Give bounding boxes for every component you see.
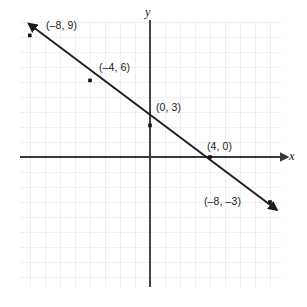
point-label-neg8-neg3: (–8, –3) [204, 196, 241, 207]
point-label-neg4-6: (–4, 6) [99, 62, 130, 73]
data-point-marker [208, 155, 212, 159]
data-point-marker [148, 124, 152, 128]
data-point-marker [88, 79, 92, 83]
graph-canvas [0, 0, 307, 307]
x-axis-label: x [289, 150, 295, 163]
point-label-4-0: (4, 0) [207, 141, 232, 152]
data-point-marker [268, 200, 272, 204]
point-label-neg8-9: (–8, 9) [46, 20, 77, 31]
y-axis-label: y [145, 6, 151, 19]
coordinate-plane-figure: y x (–8, 9) (–4, 6) (0, 3) (4, 0) (–8, –… [0, 0, 307, 307]
data-point-marker [28, 34, 32, 38]
point-label-0-3: (0, 3) [156, 102, 181, 113]
